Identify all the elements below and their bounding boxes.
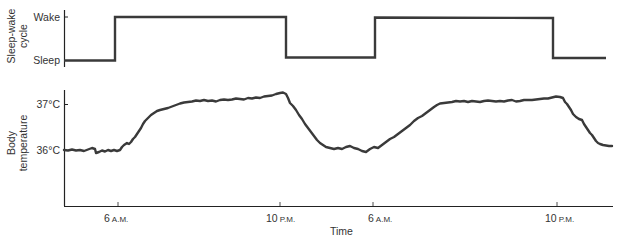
x-tick-label-6am-1: 6A.M.	[104, 212, 128, 224]
top-y-axis-label-2: cycle	[17, 24, 29, 48]
x-axis-title: Time	[330, 225, 353, 237]
x-tick-label-10pm-2: 10P.M.	[545, 212, 574, 224]
sleep-wake-panel: Sleep-wake cycle Wake Sleep	[5, 8, 606, 67]
body-temperature-line	[64, 93, 612, 154]
wake-tick-label: Wake	[34, 11, 61, 23]
sleep-temperature-chart: Sleep-wake cycle Wake Sleep Body tempera…	[0, 0, 624, 243]
tick-label-36c: 36°C	[37, 144, 61, 156]
bottom-y-axis-label: Body	[5, 130, 17, 155]
x-tick-label-10pm-1: 10P.M.	[266, 212, 295, 224]
body-temperature-panel: Body temperature 37°C 36°C	[5, 90, 613, 207]
tick-label-37c: 37°C	[37, 98, 61, 110]
sleep-tick-label: Sleep	[33, 54, 60, 66]
x-axis-labels: 6A.M. 10P.M. 6A.M. 10P.M. Time	[104, 212, 574, 237]
x-tick-label-6am-2: 6A.M.	[368, 212, 392, 224]
bottom-y-axis-label-2: temperature	[17, 115, 29, 172]
sleep-wake-step-line	[64, 17, 606, 61]
top-y-axis-label: Sleep-wake	[5, 8, 17, 63]
